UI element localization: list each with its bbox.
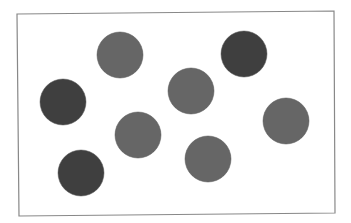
medium-circle xyxy=(263,98,309,144)
dot-figure xyxy=(0,0,351,223)
medium-circle xyxy=(168,68,214,114)
dark-circle xyxy=(40,79,86,125)
medium-circle xyxy=(185,136,231,182)
dark-circle xyxy=(221,31,267,77)
dark-circle xyxy=(58,150,104,196)
medium-circle xyxy=(97,32,143,78)
medium-circle xyxy=(115,112,161,158)
